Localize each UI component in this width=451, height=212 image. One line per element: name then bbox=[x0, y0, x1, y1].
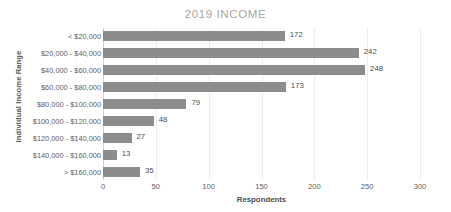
bar-row: 248 bbox=[103, 65, 420, 75]
bar-row: 35 bbox=[103, 167, 420, 177]
x-axis-tick-label: 150 bbox=[255, 182, 268, 191]
y-axis-title-label: Individual Income Range bbox=[15, 50, 24, 142]
bar-value-label: 242 bbox=[364, 47, 377, 56]
x-axis-tick-labels: 050100150200250300 bbox=[103, 182, 420, 194]
bar-row: 172 bbox=[103, 31, 420, 41]
bar-chart: 2019 INCOME Individual Income Range < $2… bbox=[0, 0, 451, 212]
bar-value-label: 79 bbox=[191, 98, 200, 107]
gridline bbox=[420, 28, 421, 180]
y-axis-tick-label: $80,000 - $100,000 bbox=[27, 100, 101, 109]
x-axis-tick-label: 300 bbox=[414, 182, 427, 191]
plot-area: 1722422481737948271335 bbox=[103, 28, 420, 180]
bar bbox=[103, 82, 286, 92]
y-axis-tick-label: $20,000 - $40,000 bbox=[27, 49, 101, 58]
bar-value-label: 173 bbox=[291, 81, 304, 90]
x-axis-tick-label: 250 bbox=[361, 182, 374, 191]
x-axis-tick-label: 50 bbox=[152, 182, 160, 191]
chart-title: 2019 INCOME bbox=[0, 8, 451, 20]
bar bbox=[103, 116, 154, 126]
bar-row: 13 bbox=[103, 150, 420, 160]
bar bbox=[103, 167, 140, 177]
bar bbox=[103, 99, 186, 109]
y-axis-tick-label: $40,000 - $60,000 bbox=[27, 66, 101, 75]
x-axis-tick-label: 200 bbox=[308, 182, 321, 191]
bar-value-label: 27 bbox=[137, 132, 146, 141]
bar bbox=[103, 150, 117, 160]
bar bbox=[103, 65, 365, 75]
bar-row: 27 bbox=[103, 133, 420, 143]
bar-value-label: 48 bbox=[159, 115, 168, 124]
bar bbox=[103, 133, 132, 143]
bar-value-label: 35 bbox=[145, 166, 154, 175]
bar-value-label: 248 bbox=[370, 64, 383, 73]
y-axis-tick-label: $120,000 - $140,000 bbox=[27, 134, 101, 143]
y-axis-tick-labels: < $20,000$20,000 - $40,000$40,000 - $60,… bbox=[25, 28, 101, 180]
y-axis-title: Individual Income Range bbox=[12, 30, 26, 162]
bar-row: 173 bbox=[103, 82, 420, 92]
x-axis-title: Respondents bbox=[103, 195, 420, 204]
y-axis-tick-label: > $160,000 bbox=[27, 168, 101, 177]
y-axis-tick-label: < $20,000 bbox=[27, 32, 101, 41]
bar-row: 79 bbox=[103, 99, 420, 109]
y-axis-tick-label: $60,000 - $80,000 bbox=[27, 83, 101, 92]
bar-row: 242 bbox=[103, 48, 420, 58]
bar-row: 48 bbox=[103, 116, 420, 126]
x-axis-tick-label: 100 bbox=[202, 182, 215, 191]
bar bbox=[103, 48, 359, 58]
x-axis-tick-label: 0 bbox=[101, 182, 105, 191]
bar bbox=[103, 31, 285, 41]
y-axis-tick-label: $100,000 - $120,000 bbox=[27, 117, 101, 126]
y-axis-tick-label: $140,000 - $160,000 bbox=[27, 151, 101, 160]
bar-value-label: 13 bbox=[122, 149, 131, 158]
bar-value-label: 172 bbox=[290, 30, 303, 39]
